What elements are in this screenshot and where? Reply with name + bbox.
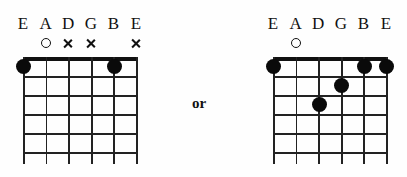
string-line <box>68 57 70 164</box>
fretboard <box>23 57 136 157</box>
muted-string-icon <box>61 37 75 51</box>
muted-string-icon <box>84 37 98 51</box>
string-label: D <box>311 14 325 34</box>
muted-string-icon <box>129 37 143 51</box>
finger-dot <box>334 78 349 93</box>
string-label: B <box>356 14 370 34</box>
string-line <box>296 57 298 164</box>
fret-line <box>23 114 136 116</box>
string-label: E <box>266 14 280 34</box>
string-label: D <box>61 14 75 34</box>
no-marker-slot <box>311 37 325 51</box>
string-label: B <box>106 14 120 34</box>
fret-line <box>273 114 386 116</box>
no-marker-slot <box>16 37 30 51</box>
fret-line <box>23 133 136 135</box>
finger-dot <box>266 59 281 74</box>
no-marker-slot <box>334 37 348 51</box>
open-string-icon <box>39 37 53 51</box>
finger-dot <box>107 59 122 74</box>
string-line <box>46 57 48 164</box>
chord-diagram-left: E A D G B E <box>23 0 136 177</box>
string-label: G <box>84 14 98 34</box>
chord-diagram-right: E A D G B E <box>273 0 386 177</box>
string-line <box>91 57 93 164</box>
fret-line <box>273 76 386 78</box>
fret-line <box>273 152 386 154</box>
no-marker-slot <box>106 37 120 51</box>
string-label: E <box>379 14 393 34</box>
fret-line <box>23 152 136 154</box>
string-line <box>136 57 138 164</box>
string-marker-row <box>16 37 143 51</box>
no-marker-slot <box>266 37 280 51</box>
fret-line <box>273 133 386 135</box>
string-line <box>341 57 343 164</box>
no-marker-slot <box>379 37 393 51</box>
finger-dot <box>357 59 372 74</box>
string-label: A <box>289 14 303 34</box>
fret-line <box>23 95 136 97</box>
string-label-row: E A D G B E <box>266 14 393 34</box>
finger-dot <box>16 59 31 74</box>
fret-line <box>273 95 386 97</box>
finger-dot <box>312 97 327 112</box>
string-label: A <box>39 14 53 34</box>
string-marker-row <box>266 37 393 51</box>
open-string-icon <box>289 37 303 51</box>
fret-line <box>23 76 136 78</box>
no-marker-slot <box>356 37 370 51</box>
string-label: G <box>334 14 348 34</box>
fretboard <box>273 57 386 157</box>
string-label-row: E A D G B E <box>16 14 143 34</box>
chord-chart: E A D G B E or E A D G B E <box>0 0 407 177</box>
string-label: E <box>16 14 30 34</box>
finger-dot <box>379 59 394 74</box>
string-label: E <box>129 14 143 34</box>
or-label: or <box>192 95 206 112</box>
